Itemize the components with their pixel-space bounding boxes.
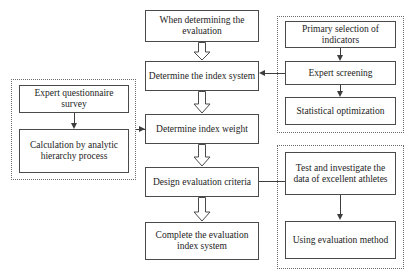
node-label: Determine index weight xyxy=(148,124,256,135)
node-label: Design evaluation criteria xyxy=(148,177,256,188)
flowchart-diagram: When determining the evaluation Determin… xyxy=(0,0,409,275)
block-arrow-index-weight-to-criteria xyxy=(193,144,211,167)
node-label: Using evaluation method xyxy=(288,235,393,246)
node-determine-index-weight[interactable]: Determine index weight xyxy=(145,114,259,144)
node-using-evaluation-method[interactable]: Using evaluation method xyxy=(285,221,396,259)
node-complete-the-evaluation-index-system[interactable]: Complete the evaluation index system xyxy=(145,222,259,260)
node-primary-selection-of-indicators[interactable]: Primary selection of indicators xyxy=(285,21,396,48)
node-label: Calculation by analytic hierarchy proces… xyxy=(22,140,126,161)
node-label: Primary selection of indicators xyxy=(288,24,393,45)
block-arrow-criteria-to-complete xyxy=(193,197,211,222)
node-expert-questionnaire-survey[interactable]: Expert questionnaire survey xyxy=(19,85,129,113)
block-arrow-index-system-to-index-weight xyxy=(193,91,211,114)
connector-criteria-to-athlete-testing-group xyxy=(259,181,285,182)
connector-questionnaire-to-ahp xyxy=(74,113,75,123)
arrowhead-down-expert-screening xyxy=(337,55,343,61)
connector-primary-selection-to-expert-screening xyxy=(340,48,341,55)
node-label: Expert screening xyxy=(288,68,393,79)
node-label: Statistical optimization xyxy=(288,106,393,117)
node-label: Complete the evaluation index system xyxy=(148,230,256,251)
arrowhead-down-statistical-optimization xyxy=(337,91,343,97)
block-arrow-start-to-index-system xyxy=(193,42,211,61)
node-calculation-by-analytic-hierarchy-process[interactable]: Calculation by analytic hierarchy proces… xyxy=(19,129,129,173)
arrowhead-left-index-system xyxy=(259,70,265,76)
node-label: Expert questionnaire survey xyxy=(22,88,126,109)
node-when-determining-the-evaluation[interactable]: When determining the evaluation xyxy=(145,10,259,42)
node-design-evaluation-criteria[interactable]: Design evaluation criteria xyxy=(145,167,259,197)
node-test-and-investigate-the-data-of-excellent-athletes[interactable]: Test and investigate the data of excelle… xyxy=(285,152,396,195)
node-statistical-optimization[interactable]: Statistical optimization xyxy=(285,97,396,125)
connector-test-data-to-using-evaluation-method xyxy=(340,195,341,214)
node-label: Test and investigate the data of excelle… xyxy=(288,163,393,184)
arrowhead-down-using-evaluation-method xyxy=(337,214,343,220)
connector-indicator-group-to-index-system xyxy=(265,73,285,74)
node-label: When determining the evaluation xyxy=(148,15,256,36)
arrowhead-right-index-weight xyxy=(139,126,145,132)
node-label: Determine the index system xyxy=(148,71,256,82)
arrowhead-down-ahp xyxy=(71,123,77,129)
node-expert-screening[interactable]: Expert screening xyxy=(285,61,396,85)
node-determine-the-index-system[interactable]: Determine the index system xyxy=(145,61,259,91)
